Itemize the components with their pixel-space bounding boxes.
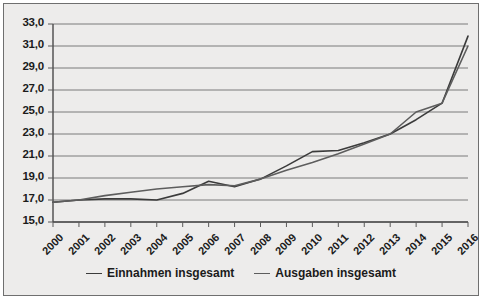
- y-tick-label: 31,0: [4, 38, 44, 50]
- chart-legend: Einnahmen insgesamt Ausgaben insgesamt: [4, 266, 478, 280]
- legend-item-ausgaben[interactable]: Ausgaben insgesamt: [254, 266, 396, 280]
- series-line-0: [53, 36, 468, 202]
- series-line-1: [53, 46, 468, 202]
- y-tick-label: 17,0: [4, 192, 44, 204]
- y-tick-label: 19,0: [4, 170, 44, 182]
- y-tick-label: 27,0: [4, 82, 44, 94]
- y-tick-label: 33,0: [4, 16, 44, 28]
- legend-label-ausgaben: Ausgaben insgesamt: [275, 266, 396, 280]
- y-tick-label: 21,0: [4, 148, 44, 160]
- chart-container: 33,031,029,027,025,023,021,019,017,015,0…: [3, 3, 479, 296]
- y-tick-label: 25,0: [4, 104, 44, 116]
- y-tick-label: 15,0: [4, 214, 44, 226]
- legend-label-einnahmen: Einnahmen insgesamt: [107, 266, 234, 280]
- legend-line-icon-ausgaben: [254, 273, 270, 274]
- legend-line-icon-einnahmen: [86, 273, 102, 274]
- plot-area: 33,031,029,027,025,023,021,019,017,015,0…: [4, 4, 480, 297]
- y-tick-label: 23,0: [4, 126, 44, 138]
- legend-item-einnahmen[interactable]: Einnahmen insgesamt: [86, 266, 234, 280]
- y-tick-label: 29,0: [4, 60, 44, 72]
